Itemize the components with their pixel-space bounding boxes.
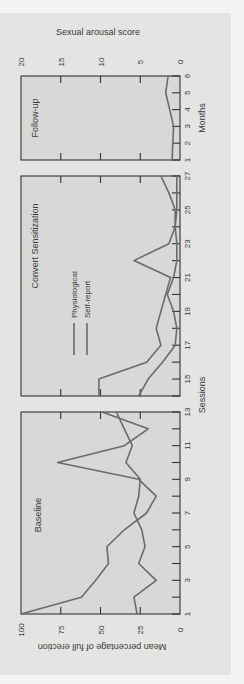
x-tick-label: 17 xyxy=(183,340,192,349)
plot-area xyxy=(21,412,180,614)
bottom-axis-ticks: 0255075100 xyxy=(17,623,185,637)
top-tick-label: 0 xyxy=(176,59,185,64)
months-label: Months xyxy=(197,103,207,133)
plot-area xyxy=(21,76,180,160)
top-tick-label: 15 xyxy=(57,57,66,66)
panel-baseline: 135791113 xyxy=(21,407,192,616)
sessions-label: Sessions xyxy=(197,376,207,413)
x-tick-label: 6 xyxy=(183,73,192,78)
panel-title-followup: Follow-up xyxy=(30,98,40,137)
chart: Sexual arousal score 05101520 1357911131… xyxy=(0,0,244,684)
x-tick-label: 21 xyxy=(183,273,192,282)
x-tick-label: 27 xyxy=(183,171,192,180)
x-tick-label: 23 xyxy=(183,239,192,248)
bottom-axis-title: Mean percentage of full erection xyxy=(38,642,167,652)
bottom-tick-label: 75 xyxy=(57,625,66,634)
x-tick-label: 3 xyxy=(183,578,192,583)
top-axis-ticks: 05101520 xyxy=(17,57,185,66)
top-tick-label: 20 xyxy=(17,57,26,66)
panel-follow-up: 123456 xyxy=(21,73,192,162)
x-tick-label: 4 xyxy=(183,107,192,112)
x-tick-label: 9 xyxy=(183,477,192,482)
legend-selfreport-label: Self-report xyxy=(83,280,92,318)
top-tick-label: 10 xyxy=(97,57,106,66)
x-tick-label: 19 xyxy=(183,306,192,315)
plot-area xyxy=(21,176,180,396)
panel-convert-sensitization: 15171921232527 xyxy=(21,171,192,396)
x-tick-label: 25 xyxy=(183,205,192,214)
legend-physiological-label: Physiological xyxy=(70,271,79,318)
x-tick-label: 5 xyxy=(183,544,192,549)
x-tick-label: 1 xyxy=(183,157,192,162)
x-tick-label: 3 xyxy=(183,124,192,129)
panel-title-convert: Convert Sensitization xyxy=(30,203,40,288)
panel-title-baseline: Baseline xyxy=(33,498,43,533)
top-tick-label: 5 xyxy=(136,59,145,64)
x-tick-label: 5 xyxy=(183,90,192,95)
x-tick-label: 2 xyxy=(183,140,192,145)
bottom-tick-label: 100 xyxy=(17,623,26,637)
x-tick-label: 15 xyxy=(183,374,192,383)
x-tick-label: 7 xyxy=(183,510,192,515)
bottom-tick-label: 25 xyxy=(136,625,145,634)
x-tick-label: 11 xyxy=(183,441,192,450)
x-tick-label: 1 xyxy=(183,611,192,616)
bottom-tick-label: 50 xyxy=(97,625,106,634)
top-axis-title: Sexual arousal score xyxy=(56,27,140,37)
x-tick-label: 13 xyxy=(183,407,192,416)
bottom-tick-label: 0 xyxy=(176,627,185,632)
